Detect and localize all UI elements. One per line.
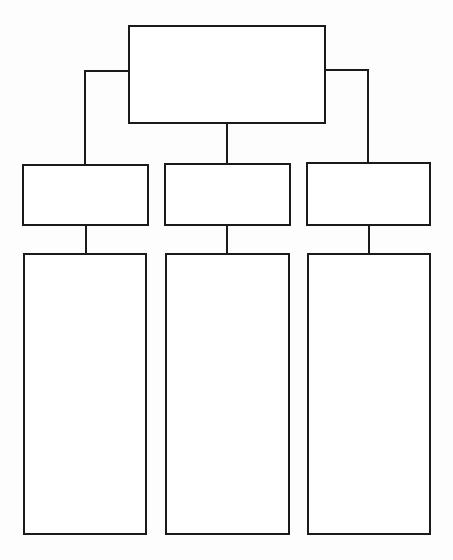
node-leaf-right-box[interactable] (308, 254, 430, 534)
diagram-canvas (0, 0, 453, 560)
node-leaf-right[interactable] (308, 254, 430, 534)
node-branch-center-box[interactable] (165, 164, 290, 225)
node-branch-left-box[interactable] (23, 165, 148, 225)
node-root-box[interactable] (129, 26, 325, 123)
connector-root-to-branch-right (325, 70, 368, 163)
node-leaf-center[interactable] (166, 254, 289, 534)
connector-root-to-branch-left (85, 71, 129, 165)
node-branch-right-box[interactable] (307, 163, 430, 225)
node-branch-center[interactable] (165, 164, 290, 225)
hierarchy-chart (0, 0, 453, 560)
node-branch-left[interactable] (23, 165, 148, 225)
node-leaf-center-box[interactable] (166, 254, 289, 534)
node-leaf-left[interactable] (24, 254, 146, 534)
node-branch-right[interactable] (307, 163, 430, 225)
node-root[interactable] (129, 26, 325, 123)
node-leaf-left-box[interactable] (24, 254, 146, 534)
